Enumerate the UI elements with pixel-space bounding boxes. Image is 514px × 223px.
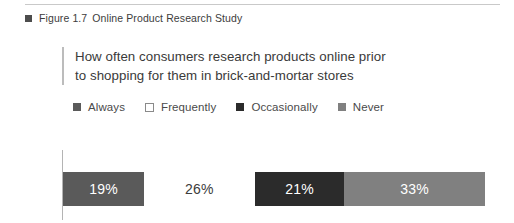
bar-segment-always: 19% (63, 172, 144, 206)
stacked-bar-chart: 19% 26% 21% 33% (62, 150, 486, 220)
square-bullet-icon (25, 15, 32, 22)
legend-label: Always (88, 101, 125, 113)
legend-item-never: Never (338, 101, 384, 113)
legend-item-always: Always (73, 101, 125, 113)
figure-caption: Figure 1.7 Online Product Research Study (25, 12, 242, 24)
bar-segment-value: 21% (285, 181, 314, 197)
legend-label: Occasionally (251, 101, 317, 113)
figure-number: Figure 1.7 (39, 12, 87, 24)
bar-segment-never: 33% (344, 172, 485, 206)
figure-title: Online Product Research Study (92, 12, 242, 24)
legend-swatch-icon (73, 103, 81, 111)
bar-segment-frequently: 26% (144, 172, 255, 206)
bar-segment-value: 33% (400, 181, 429, 197)
legend-swatch-icon (145, 103, 154, 112)
chart-headline: How often consumers research products on… (62, 47, 392, 85)
bar-segment-value: 26% (185, 181, 214, 197)
chart-legend: Always Frequently Occasionally Never (73, 101, 384, 113)
stacked-bar: 19% 26% 21% 33% (63, 172, 485, 206)
legend-swatch-icon (236, 103, 244, 111)
legend-label: Never (353, 101, 384, 113)
chart-headline-text: How often consumers research products on… (75, 47, 392, 85)
top-divider (25, 4, 500, 5)
bar-segment-value: 19% (89, 181, 118, 197)
legend-item-frequently: Frequently (145, 101, 216, 113)
legend-item-occasionally: Occasionally (236, 101, 317, 113)
bar-segment-occasionally: 21% (255, 172, 345, 206)
legend-swatch-icon (338, 103, 346, 111)
legend-label: Frequently (161, 101, 216, 113)
